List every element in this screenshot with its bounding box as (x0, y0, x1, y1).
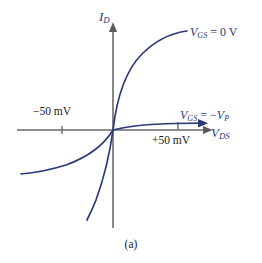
curve-label-vgs-zero-subscript: GS (197, 31, 207, 40)
figure-caption: (a) (0, 238, 262, 250)
curve-label-vgs-minus-vp-equals: = − (197, 108, 217, 122)
jfet-characteristic-figure: ID VDS VGS = 0 V VGS = −VP −50 mV +50 mV… (0, 0, 262, 263)
curve-label-vgs-minus-vp: VGS = −VP (180, 109, 229, 123)
curve-vgs-minus-vp (113, 123, 203, 130)
curve-label-vgs-minus-vp-subscript2: P (224, 114, 229, 123)
x-axis-label-symbol: V (211, 125, 219, 140)
curve-label-vgs-zero: VGS = 0 V (190, 26, 238, 40)
curve-label-vgs-minus-vp-subscript: GS (187, 114, 197, 123)
x-axis-label: VDS (211, 126, 230, 141)
x-tick-label-plus-50: +50 mV (152, 135, 190, 147)
curve-vgs-zero (113, 31, 187, 130)
curve-negative-vds-branch (21, 130, 113, 174)
x-tick-label-minus-50: −50 mV (33, 106, 71, 118)
x-axis-label-subscript: DS (219, 131, 230, 141)
y-axis-label-subscript: D (103, 15, 109, 25)
y-axis-label: ID (99, 10, 110, 25)
curve-steep-descending-branch (87, 130, 113, 220)
curve-label-vgs-zero-value: = 0 V (207, 25, 237, 39)
